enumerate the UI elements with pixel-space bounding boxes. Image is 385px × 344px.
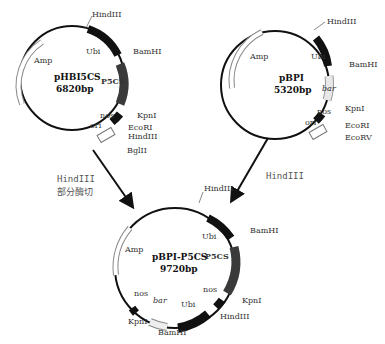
label-p5cs: P5CS — [205, 251, 229, 261]
nos-terminator — [216, 300, 222, 307]
annotation-left-enzyme: HindIII — [57, 174, 95, 184]
site-bamhi: BamHI — [250, 226, 278, 235]
site-ecori: EcoRI — [345, 121, 369, 130]
site-hindiii-top: HindIII — [327, 17, 356, 26]
label-ori: ori — [90, 121, 102, 130]
site-hindiii-bottom: HindIII — [128, 132, 157, 141]
label-ubi2: Ubi — [181, 300, 196, 309]
label-ori: ori — [305, 118, 317, 127]
plasmid-pbpi: pBPI 5320bp Amp Ubi bar nos ori HindIII … — [221, 17, 377, 142]
site-kpni: KpnI — [242, 296, 261, 305]
plasmid-size: 9720bp — [160, 264, 198, 274]
label-ubi: Ubi — [86, 47, 101, 56]
label-bar: bar — [153, 296, 168, 305]
plasmid-size: 5320bp — [274, 85, 312, 95]
plasmid-name: pHBI5CS — [54, 72, 101, 82]
plasmid-phbi5cs: pHBI5CS 6820bp Amp Ubi P5CS nos ori Hind… — [19, 10, 162, 155]
site-bamhi2: BamHI — [158, 328, 186, 337]
site-ecori: EcoRI — [128, 123, 152, 132]
label-amp: Amp — [33, 56, 52, 65]
nos2-terminator — [132, 308, 136, 313]
label-amp: Amp — [249, 52, 268, 61]
plasmid-construction-diagram: pHBI5CS 6820bp Amp Ubi P5CS nos ori Hind… — [0, 0, 385, 344]
site-ecorv: EcoRV — [345, 133, 372, 142]
ubi2-promoter — [178, 314, 208, 328]
label-nos: nos — [317, 107, 331, 116]
label-nos2: nos — [134, 289, 148, 298]
label-amp: Amp — [124, 245, 143, 254]
plasmid-name: pBPI — [279, 73, 304, 83]
label-nos: nos — [203, 285, 217, 294]
label-ubi: Ubi — [202, 232, 217, 241]
site-kpni: KpnI — [345, 104, 364, 113]
label-bar: bar — [322, 84, 337, 93]
site-hindiii-bottom: HindIII — [220, 312, 249, 321]
site-kpni2: KpnI — [128, 317, 147, 326]
plasmid-name: pBPI-P5CS — [152, 252, 207, 262]
label-p5cs: P5CS — [101, 76, 125, 86]
arrow-left — [93, 150, 132, 206]
arrow-right — [232, 138, 268, 200]
site-bamhi: BamHI — [133, 47, 161, 56]
annotation-right-enzyme: HindIII — [266, 171, 304, 181]
annotation-left-partial-digest: 部分酶切 — [57, 186, 93, 197]
plasmid-pbpi-p5cs: pBPI-P5CS 9720bp Amp Ubi P5CS nos nos Ub… — [115, 184, 278, 337]
site-kpni: KpnI — [137, 111, 156, 120]
plasmid-size: 6820bp — [56, 84, 94, 94]
label-ubi: Ubi — [311, 52, 326, 61]
label-nos: nos — [100, 111, 114, 120]
site-bglii: BglII — [127, 146, 147, 155]
site-bamhi: BamHI — [349, 60, 377, 69]
site-hindiii-top: HindIII — [92, 10, 121, 19]
site-hindiii-top: HindIII — [204, 184, 233, 193]
